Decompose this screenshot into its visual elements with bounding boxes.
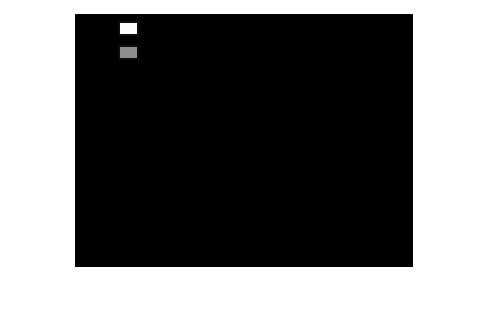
- chart-plot-area: [0, 0, 490, 310]
- figure-caption: [36, 288, 38, 302]
- legend-swatch-surplus: [118, 21, 139, 36]
- legend-swatch-deficit: [118, 45, 139, 60]
- caption-separator: [36, 288, 38, 302]
- balance-of-payments-figure: [0, 0, 490, 310]
